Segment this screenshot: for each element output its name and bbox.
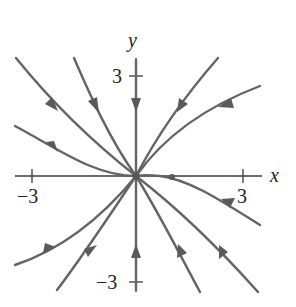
trajectory-upper-right-outer [136, 86, 260, 176]
x-axis-label: x [270, 165, 279, 185]
marked-point [169, 174, 175, 180]
x-tick-label-3: 3 [237, 186, 247, 206]
trajectory-upper-left-inner [74, 58, 136, 176]
phase-portrait-diagram: y x 3 −3 −3 3 [0, 0, 296, 307]
trajectory-left-tangent [15, 126, 136, 176]
y-tick-label-3: 3 [112, 66, 122, 86]
trajectory-upper-right-inner [136, 58, 218, 176]
trajectory-negative-y-axis [131, 176, 141, 290]
trajectory-lower-right-inner [136, 176, 200, 292]
y-axis-label: y [128, 30, 137, 50]
trajectory-positive-y-axis [131, 60, 141, 176]
y-tick-label-neg3: −3 [96, 272, 117, 292]
phase-portrait-canvas [0, 0, 296, 307]
x-tick-label-neg3: −3 [17, 186, 38, 206]
equilibrium-point [133, 173, 140, 180]
